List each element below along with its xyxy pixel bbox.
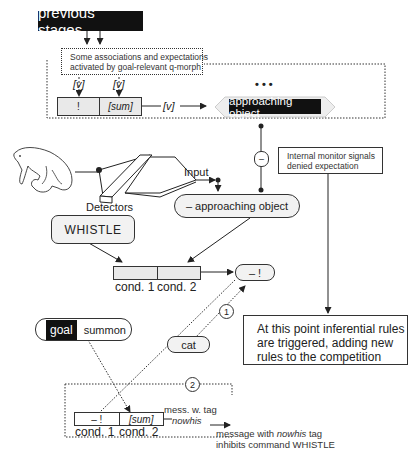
dotted-goal-to-cond2 bbox=[88, 340, 130, 412]
middle-rule-cond1 bbox=[114, 267, 158, 279]
message-note-tag: nowhis bbox=[277, 428, 307, 439]
cat-text: cat bbox=[181, 339, 196, 351]
middle-cond1-label: cond. 1 bbox=[115, 281, 154, 293]
tag-line-2: nowhis bbox=[172, 416, 202, 426]
middle-cond2-label: cond. 2 bbox=[157, 281, 196, 293]
bottom-rule-cond1: – ! bbox=[75, 413, 120, 425]
bottom-rule-cond2: [sum] bbox=[120, 413, 164, 425]
top-rule-cond1: ! bbox=[58, 98, 100, 115]
whistle-command: WHISTLE bbox=[51, 215, 135, 244]
associations-line-1: Some associations and expectations bbox=[70, 53, 208, 62]
message-note-line-1: message with nowhis tag bbox=[216, 429, 322, 439]
negation-node: – bbox=[254, 151, 269, 167]
top-rule-cond2: [sum] bbox=[100, 98, 141, 115]
goal-value: summon bbox=[84, 324, 126, 336]
monitor-line-2: denied expectation bbox=[287, 162, 358, 171]
whistle-arrow bbox=[87, 242, 122, 262]
junction-dot-bottom bbox=[259, 188, 264, 193]
ellipsis: • • • bbox=[255, 79, 273, 90]
goal-tag: goal bbox=[46, 320, 77, 340]
associations-line-2: activated by goal-relevant q-morph bbox=[70, 63, 201, 72]
cat-pill: cat bbox=[167, 336, 210, 353]
associations-box: Some associations and expectations activ… bbox=[61, 48, 203, 75]
approaching-object-text: approaching object bbox=[229, 95, 321, 119]
tag-line-1: mess. w. tag bbox=[164, 405, 217, 415]
bottom-rule-conditions: – ! [sum] bbox=[74, 412, 164, 426]
message-note-line-2: inhibits command WHISTLE bbox=[216, 440, 335, 449]
var-marker-1: [v] bbox=[73, 79, 85, 90]
negated-object-text: – approaching object bbox=[186, 200, 288, 212]
monitor-line-1: Internal monitor signals bbox=[287, 152, 375, 161]
top-rule-conditions: ! [sum] bbox=[57, 97, 142, 116]
approaching-object-label: approaching object bbox=[229, 99, 321, 114]
rule-output-var: [v] bbox=[163, 101, 175, 112]
previous-stages-label: previous stages bbox=[38, 4, 143, 38]
negated-object-pill: – approaching object bbox=[174, 194, 300, 218]
inferential-line-1: At this point inferential rules bbox=[257, 323, 404, 335]
inferential-line-3: rules to the competition bbox=[257, 351, 381, 363]
marker-2-text: 2 bbox=[190, 380, 195, 390]
inferential-line-2: are triggered, adding new bbox=[257, 337, 393, 349]
whistle-text: WHISTLE bbox=[65, 223, 122, 237]
message-note-post: tag bbox=[306, 428, 322, 439]
middle-rule-conditions bbox=[113, 266, 201, 280]
negated-bang-text: – ! bbox=[249, 267, 261, 279]
monitor-box: Internal monitor signals denied expectat… bbox=[278, 147, 383, 174]
negated-bang-pill: – ! bbox=[235, 264, 275, 281]
marker-2: 2 bbox=[185, 377, 200, 392]
marker-1-text: 1 bbox=[224, 307, 229, 317]
middle-rule-cond2 bbox=[158, 267, 201, 279]
detectors-label: Detectors bbox=[86, 202, 133, 213]
inferential-box: At this point inferential rules are trig… bbox=[243, 315, 408, 365]
var-marker-2: [v] bbox=[113, 79, 125, 90]
goal-pill: goal summon bbox=[35, 318, 132, 341]
cat-illustration bbox=[14, 148, 72, 193]
message-note-pre: message with bbox=[216, 428, 277, 439]
marker-1: 1 bbox=[219, 304, 234, 319]
neg-object-arrow bbox=[188, 218, 250, 262]
bottom-cond1-label: cond. 1 bbox=[75, 426, 114, 438]
input-label: Input bbox=[184, 167, 208, 178]
bottom-cond2-label: cond. 2 bbox=[119, 426, 158, 438]
negation-symbol: – bbox=[259, 154, 264, 164]
previous-stages-box: previous stages bbox=[38, 11, 143, 31]
